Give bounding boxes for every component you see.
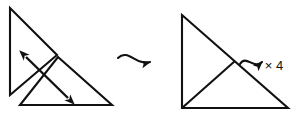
geometry-diagram: × 4 [0,0,298,122]
multiplier-label: × 4 [265,58,283,73]
diagram-background [0,0,298,122]
